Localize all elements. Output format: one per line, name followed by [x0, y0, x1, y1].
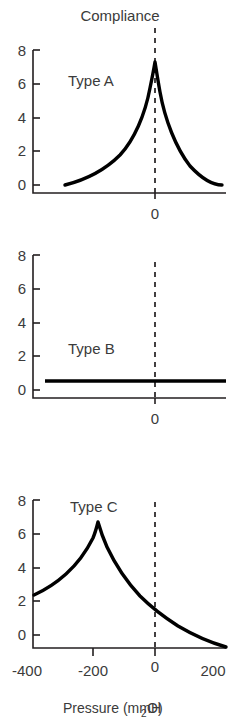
panel-c-ytick-4: 4	[18, 559, 26, 576]
panel-c-xtick-200: 200	[200, 662, 225, 679]
panel-c-ytick-8: 8	[18, 492, 26, 509]
panel-a-xtick-zero-label: 0	[151, 205, 159, 222]
panel-type-b: 0 2 4 6 8 0 Type B	[18, 247, 226, 427]
panel-b-ytick-4: 4	[18, 314, 26, 331]
panel-b-ytick-8: 8	[18, 247, 26, 264]
panel-c-xtick--200: -200	[78, 662, 108, 679]
figure-title: Compliance	[80, 7, 159, 24]
panel-a-label: Type A	[68, 72, 114, 89]
panel-c-x-ticks	[93, 648, 155, 656]
panel-c-curve	[34, 522, 226, 647]
panel-b-ytick-0: 0	[18, 381, 26, 398]
panel-a-ytick-6: 6	[18, 75, 26, 92]
panel-b-label: Type B	[68, 340, 115, 357]
panel-b-axes	[33, 255, 226, 398]
panel-c-xtick-0: 0	[151, 658, 159, 675]
panel-c-xtick--400: -400	[12, 662, 42, 679]
panel-c-label: Type C	[70, 498, 118, 515]
panel-c-ytick-6: 6	[18, 525, 26, 542]
panel-b-ytick-2: 2	[18, 347, 26, 364]
panel-type-a: 0 2 4 6 8 0 Type A	[18, 28, 226, 222]
panel-c-ytick-2: 2	[18, 592, 26, 609]
figure-svg: Compliance 0 2 4 6 8 0	[0, 0, 241, 721]
panel-a-y-ticks	[33, 50, 40, 185]
panel-c-y-ticks	[33, 500, 40, 635]
panel-b-y-ticks	[33, 255, 40, 390]
panel-a-ytick-0: 0	[18, 176, 26, 193]
panel-b-ytick-6: 6	[18, 280, 26, 297]
panel-c-ytick-0: 0	[18, 626, 26, 643]
x-axis-title-end: O)	[147, 700, 163, 716]
panel-a-ytick-8: 8	[18, 42, 26, 59]
compliance-figure: Compliance 0 2 4 6 8 0	[0, 0, 241, 721]
panel-c-axes	[33, 500, 226, 648]
panel-a-ytick-4: 4	[18, 109, 26, 126]
panel-type-c: 0 2 4 6 8 -400 -200 0 200 Type C	[12, 492, 226, 679]
panel-a-ytick-2: 2	[18, 142, 26, 159]
x-axis-title: Pressure (mmH 2 O)	[63, 700, 163, 719]
panel-b-xtick-zero-label: 0	[151, 410, 159, 427]
